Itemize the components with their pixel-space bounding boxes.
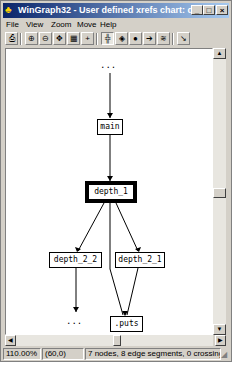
scroll-down-button[interactable]: ▼	[213, 324, 226, 335]
vertical-scroll-thumb[interactable]	[213, 188, 226, 198]
scroll-left-button[interactable]: ◀	[5, 335, 16, 346]
zoom-in-icon[interactable]: ⊕	[25, 32, 38, 45]
arrow-icon[interactable]: ➔	[143, 32, 156, 45]
status-zoom: 110.00%	[3, 348, 41, 360]
color-icon[interactable]: ◈	[115, 32, 128, 45]
status-bar: 110.00% (60,0) 7 nodes, 8 edge segments,…	[3, 348, 229, 361]
fit-icon[interactable]: ✥	[53, 32, 66, 45]
menu-file[interactable]: File	[6, 19, 19, 31]
scroll-up-button[interactable]: ▲	[213, 48, 226, 59]
move-icon[interactable]: +	[81, 32, 94, 45]
toolbar-separator	[96, 33, 98, 45]
title-bar[interactable]: ♣ WinGraph32 - User defined xrefs chart:…	[3, 3, 229, 18]
resize-grip-icon[interactable]: ◢	[221, 350, 227, 359]
status-coords: (60,0)	[42, 348, 84, 360]
zoom-100-icon[interactable]: ▦	[67, 32, 80, 45]
status-info: 7 nodes, 8 edge segments, 0 crossings	[85, 348, 221, 360]
menu-move[interactable]: Move	[77, 19, 97, 31]
graph-node-depth-2-2[interactable]: depth_2_2	[49, 252, 102, 268]
graph-node-ellipsis-top[interactable]: ...	[100, 60, 116, 70]
toolbar-separator	[172, 33, 174, 45]
graph-node-depth-1[interactable]: depth_1	[85, 181, 137, 203]
node-info-icon[interactable]: ●	[129, 32, 142, 45]
wingraph-window: ♣ WinGraph32 - User defined xrefs chart:…	[0, 0, 232, 362]
cursor-icon[interactable]: ↘	[177, 32, 190, 45]
maximize-button[interactable]: □	[203, 5, 215, 15]
scroll-right-button[interactable]: ▶	[215, 335, 226, 346]
close-button[interactable]: ×	[216, 5, 228, 15]
menu-bar: File View Zoom Move Help	[3, 19, 229, 31]
horizontal-scroll-thumb[interactable]	[113, 335, 121, 346]
minimize-button[interactable]: _	[191, 5, 203, 15]
menu-view[interactable]: View	[26, 19, 43, 31]
menu-zoom[interactable]: Zoom	[51, 19, 71, 31]
graph-node-main[interactable]: main	[97, 119, 123, 135]
layout-icon[interactable]: ╬	[101, 32, 114, 45]
app-icon: ♣	[5, 5, 15, 15]
stack-icon[interactable]: ≋	[157, 32, 170, 45]
graph-node-puts[interactable]: .puts	[110, 316, 143, 332]
graph-node-ellipsis-bottom[interactable]: ...	[66, 316, 82, 326]
toolbar-separator	[20, 33, 22, 45]
graph-canvas[interactable]: ... main depth_1 depth_2_2 depth_2_1 ...…	[5, 48, 213, 335]
horizontal-scrollbar[interactable]: ◀ ▶	[5, 335, 213, 346]
zoom-out-icon[interactable]: ⊖	[39, 32, 52, 45]
menu-help[interactable]: Help	[100, 19, 116, 31]
print-icon[interactable]: ⎙	[5, 32, 18, 45]
toolbar: ⎙ ⊕ ⊖ ✥ ▦ + ╬ ◈ ● ➔ ≋ ↘	[3, 31, 229, 47]
graph-node-depth-2-1[interactable]: depth_2_1	[115, 252, 165, 268]
vertical-scrollbar[interactable]: ▲ ▼	[213, 48, 226, 335]
